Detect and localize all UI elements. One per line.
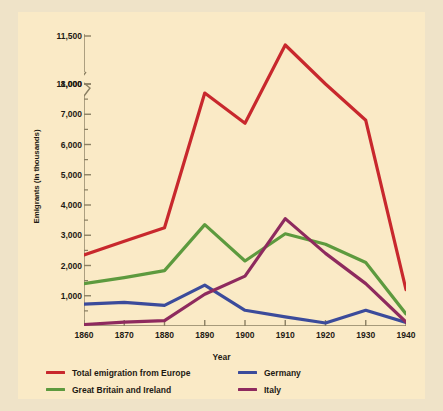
x-tick-label: 1900	[223, 330, 267, 340]
line-chart-svg	[84, 26, 406, 326]
x-tick-label: 1920	[304, 330, 348, 340]
legend-label: Germany	[264, 368, 301, 378]
series-line	[84, 45, 406, 290]
y-tick-label: 11,500	[34, 31, 82, 41]
series-line	[84, 285, 406, 323]
x-axis-tick-labels: 186018701880189019001910192019301940	[84, 330, 406, 344]
x-tick-label: 1880	[143, 330, 187, 340]
plot-area	[84, 26, 406, 326]
legend-label: Total emigration from Europe	[72, 368, 190, 378]
y-tick-label: 7,000	[34, 109, 82, 119]
y-axis-tick-labels: 1,0002,0003,0004,0005,0006,0007,0008,000…	[26, 26, 82, 326]
chart-figure: Emigrants (in thousands) 1,0002,0003,000…	[18, 12, 425, 399]
y-tick-label: 2,000	[34, 261, 82, 271]
legend-label: Great Britain and Ireland	[72, 385, 171, 395]
legend-label: Italy	[264, 385, 281, 395]
legend-item[interactable]: Great Britain and Ireland	[46, 381, 238, 398]
y-tick-label: 5,000	[34, 170, 82, 180]
legend-color-swatch	[238, 388, 257, 392]
x-tick-label: 1860	[62, 330, 106, 340]
legend-item[interactable]: Italy	[238, 381, 388, 398]
x-tick-label: 1930	[344, 330, 388, 340]
x-tick-label: 1870	[102, 330, 146, 340]
x-axis-label: Year	[18, 352, 425, 362]
y-tick-label: 4,000	[34, 200, 82, 210]
x-tick-label: 1910	[263, 330, 307, 340]
x-tick-label: 1890	[183, 330, 227, 340]
y-tick-label: 1,000	[34, 291, 82, 301]
legend-color-swatch	[46, 388, 65, 392]
y-tick-label: 6,000	[34, 140, 82, 150]
y-tick-label: 3,000	[34, 230, 82, 240]
legend-item[interactable]: Germany	[238, 364, 388, 381]
legend-color-swatch	[46, 371, 65, 375]
legend-color-swatch	[238, 371, 257, 375]
y-tick-label: 11,000	[34, 79, 82, 89]
chart-legend: Total emigration from EuropeGermanyGreat…	[46, 364, 406, 398]
legend-item[interactable]: Total emigration from Europe	[46, 364, 238, 381]
x-tick-label: 1940	[384, 330, 428, 340]
